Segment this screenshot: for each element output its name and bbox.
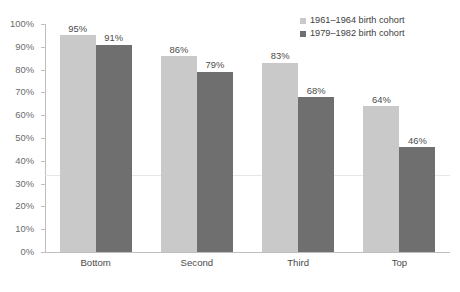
bar-value-label: 68% — [307, 86, 326, 95]
bar: 46% — [399, 147, 435, 252]
bar-value-label: 79% — [205, 60, 224, 69]
bar-value-label: 91% — [104, 33, 123, 42]
y-axis-tick-label: 100% — [10, 19, 34, 28]
plot-area: 0%10%20%30%40%50%60%70%80%90%100% 95%91%… — [45, 24, 450, 252]
y-axis-tick-label: 10% — [15, 224, 34, 233]
bar: 86% — [161, 56, 197, 252]
bar-chart: 1961–1964 birth cohort 1979–1982 birth c… — [0, 0, 460, 292]
x-axis-category-label: Third — [287, 258, 309, 268]
bar: 79% — [197, 72, 233, 252]
x-axis-categories: BottomSecondThirdTop — [45, 258, 450, 276]
y-axis-tick-label: 30% — [15, 179, 34, 188]
legend-swatch-icon — [300, 18, 306, 24]
bar-value-label: 86% — [169, 45, 188, 54]
y-axis-tick: 0% — [41, 252, 45, 253]
bar-value-label: 46% — [408, 136, 427, 145]
y-axis-tick-label: 40% — [15, 156, 34, 165]
bar: 91% — [96, 45, 132, 252]
y-axis-tick-label: 60% — [15, 110, 34, 119]
bar: 64% — [363, 106, 399, 252]
y-axis-tick-label: 50% — [15, 133, 34, 142]
bar-group: 86%79% — [161, 24, 233, 252]
bar-group: 95%91% — [60, 24, 132, 252]
x-axis-category-label: Top — [392, 258, 407, 268]
bar: 83% — [262, 63, 298, 252]
bar: 95% — [60, 35, 96, 252]
y-axis-tick-label: 90% — [15, 42, 34, 51]
bar-value-label: 95% — [68, 24, 87, 33]
bar-group: 64%46% — [363, 24, 435, 252]
bar-value-label: 83% — [271, 51, 290, 60]
x-axis-category-label: Second — [181, 258, 214, 268]
y-axis-tick-label: 70% — [15, 88, 34, 97]
y-axis-tick-label: 0% — [20, 247, 34, 256]
y-axis-tick-label: 80% — [15, 65, 34, 74]
bar-layer: 95%91%86%79%83%68%64%46% — [45, 24, 450, 252]
bar-value-label: 64% — [372, 95, 391, 104]
bar-group: 83%68% — [262, 24, 334, 252]
bar: 68% — [298, 97, 334, 252]
y-axis-tick-label: 20% — [15, 202, 34, 211]
x-axis-line — [45, 252, 450, 253]
x-axis-category-label: Bottom — [80, 258, 110, 268]
